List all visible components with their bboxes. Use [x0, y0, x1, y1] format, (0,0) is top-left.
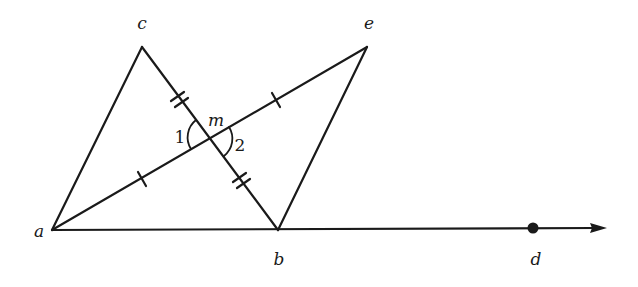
point-d-dot — [528, 223, 539, 234]
segment-ae — [52, 47, 367, 230]
label-point-a: a — [34, 223, 44, 240]
segment-ac — [52, 47, 142, 230]
angle-arc-1 — [188, 120, 196, 149]
geometry-diagram — [0, 0, 638, 287]
label-point-c: c — [137, 15, 147, 32]
label-angle-2: 2 — [235, 137, 246, 154]
angle-arc-2 — [224, 127, 232, 156]
double-tick-mark-mb-2 — [237, 179, 250, 188]
double-tick-mark-mb-1 — [233, 173, 246, 182]
label-point-b: b — [274, 251, 285, 268]
label-point-m: m — [208, 112, 224, 129]
label-point-e: e — [364, 15, 374, 32]
arrowhead-icon — [590, 223, 607, 233]
tick-mark-me — [272, 93, 280, 107]
segment-eb — [278, 47, 367, 230]
label-angle-1: 1 — [175, 129, 186, 146]
ray-ad — [52, 228, 596, 230]
label-point-d: d — [531, 251, 542, 268]
